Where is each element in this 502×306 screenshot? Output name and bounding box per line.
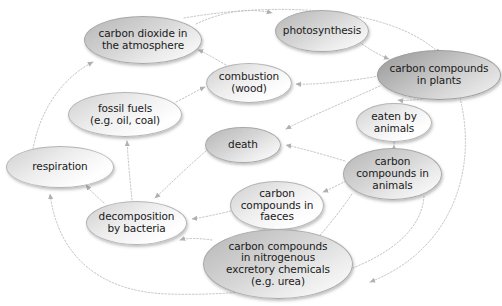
node-label-carbon-compounds-nitrogenous: carbon compounds in nitrogenous excretor… [221, 241, 335, 288]
node-label-combustion-wood: combustion (wood) [214, 71, 284, 95]
node-label-respiration: respiration [27, 161, 92, 173]
node-combustion-wood[interactable]: combustion (wood) [206, 63, 292, 103]
node-label-eaten-by-animals: eaten by animals [366, 111, 422, 135]
node-decomposition-by-bacteria[interactable]: decomposition by bacteria [86, 201, 187, 245]
node-carbon-compounds-nitrogenous[interactable]: carbon compounds in nitrogenous excretor… [203, 229, 353, 299]
node-carbon-compounds-faeces[interactable]: carbon compounds in faeces [230, 181, 324, 230]
node-label-death: death [223, 139, 263, 151]
node-label-carbon-dioxide-atmosphere: carbon dioxide in the atmosphere [94, 28, 193, 52]
node-carbon-compounds-plants[interactable]: carbon compounds in plants [377, 50, 501, 100]
node-label-fossil-fuels: fossil fuels (e.g. oil, coal) [85, 103, 165, 127]
node-label-carbon-compounds-plants: carbon compounds in plants [385, 63, 494, 87]
node-photosynthesis[interactable]: photosynthesis [275, 10, 369, 52]
node-label-carbon-compounds-animals: carbon compounds in animals [351, 156, 434, 191]
node-label-decomposition-by-bacteria: decomposition by bacteria [94, 211, 180, 235]
node-layer: carbon dioxide in the atmospherephotosyn… [0, 0, 502, 306]
node-label-photosynthesis: photosynthesis [278, 25, 366, 37]
node-label-carbon-compounds-faeces: carbon compounds in faeces [236, 188, 319, 223]
node-fossil-fuels[interactable]: fossil fuels (e.g. oil, coal) [68, 92, 182, 137]
node-carbon-compounds-animals[interactable]: carbon compounds in animals [343, 148, 442, 200]
node-carbon-dioxide-atmosphere[interactable]: carbon dioxide in the atmosphere [84, 16, 202, 64]
node-eaten-by-animals[interactable]: eaten by animals [356, 103, 432, 142]
node-respiration[interactable]: respiration [6, 146, 114, 188]
carbon-cycle-diagram: carbon dioxide in the atmospherephotosyn… [0, 0, 502, 306]
node-death[interactable]: death [205, 127, 281, 163]
